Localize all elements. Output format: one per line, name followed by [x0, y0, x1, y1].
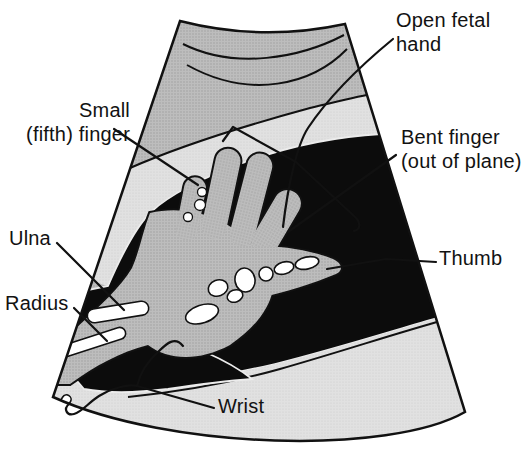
label-ulna-text: Ulna	[9, 226, 51, 250]
label-radius-text: Radius	[5, 291, 68, 315]
label-bent-finger-line2: (out of plane)	[401, 149, 522, 173]
thumb-bone	[259, 267, 273, 281]
ultrasound-schematic-drawing	[0, 0, 529, 459]
label-small-fifth-finger-line2: (fifth) finger	[6, 122, 130, 146]
label-ulna: Ulna	[9, 226, 51, 250]
label-bent-finger: Bent finger (out of plane)	[401, 125, 522, 173]
figure-fetal-hand-ultrasound-schematic: Open fetal hand Small (fifth) finger Ben…	[0, 0, 529, 459]
label-thumb: Thumb	[439, 246, 502, 270]
label-small-fifth-finger-line1: Small	[6, 98, 130, 122]
label-wrist-text: Wrist	[218, 394, 264, 418]
label-small-fifth-finger: Small (fifth) finger	[6, 98, 130, 146]
label-wrist: Wrist	[218, 394, 264, 418]
label-open-fetal-hand: Open fetal hand	[396, 8, 490, 56]
label-open-fetal-hand-line2: hand	[396, 32, 490, 56]
label-open-fetal-hand-line1: Open fetal	[396, 8, 490, 32]
label-bent-finger-line1: Bent finger	[401, 125, 522, 149]
label-radius: Radius	[5, 291, 68, 315]
label-thumb-text: Thumb	[439, 246, 502, 270]
